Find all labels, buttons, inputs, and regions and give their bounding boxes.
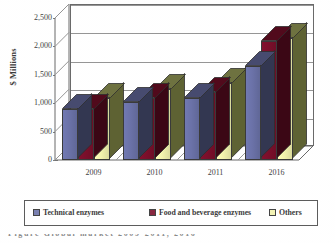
x-axis-category-labels: 2009201020112016: [56, 168, 314, 182]
y-axis-tick-label: 2,500: [14, 13, 52, 22]
legend-label: Technical enzymes: [43, 208, 104, 217]
legend-item[interactable]: Others: [269, 208, 302, 217]
bar-group: [245, 18, 293, 160]
y-axis-tick-label: 1,000: [14, 98, 52, 107]
plot-area: [56, 18, 300, 160]
legend-item[interactable]: Food and beverage enzymes: [149, 208, 251, 217]
bar-top-face: [62, 94, 94, 110]
y-axis-tick-label: 1,500: [14, 70, 52, 79]
legend-swatch: [33, 209, 40, 216]
bar-side-face: [292, 22, 308, 160]
bar-top-face: [123, 87, 155, 103]
bar-top-face: [184, 83, 216, 99]
x-axis-label-2010: 2010: [133, 168, 177, 177]
bar-top-face: [261, 26, 293, 42]
legend-swatch: [269, 209, 276, 216]
cropped-caption-text: Figure Global market 2009-2011, 2016: [8, 234, 196, 238]
x-axis-label-2011: 2011: [194, 168, 238, 177]
x-axis-label-2009: 2009: [72, 168, 116, 177]
legend-swatch: [149, 209, 156, 216]
bar-top-face: [245, 51, 277, 67]
x-axis-label-2016: 2016: [255, 168, 299, 177]
bar-front-face: [245, 66, 261, 160]
bar-group: [62, 18, 110, 160]
bar-side-face: [276, 25, 292, 160]
bar-front-face: [184, 98, 200, 160]
y-axis-tick-label: 2,000: [14, 41, 52, 50]
chart-legend: Technical enzymesFood and beverage enzym…: [24, 200, 318, 226]
bar-front-face: [62, 109, 78, 160]
bar-group: [123, 18, 171, 160]
legend-item[interactable]: Technical enzymes: [33, 208, 104, 217]
bar-group: [184, 18, 232, 160]
y-axis-tick-label: 0: [14, 155, 52, 164]
y-axis-tick-labels: 05001,0001,5002,0002,500: [14, 0, 52, 180]
legend-label: Food and beverage enzymes: [159, 208, 251, 217]
bar-chart-figure: $ Millions 05001,0001,5002,0002,500 2009…: [0, 0, 335, 243]
cropped-caption: Figure Global market 2009-2011, 2016: [0, 234, 335, 243]
y-axis-tick-label: 500: [14, 127, 52, 136]
legend-label: Others: [279, 208, 302, 217]
bar-front-face: [123, 102, 139, 161]
